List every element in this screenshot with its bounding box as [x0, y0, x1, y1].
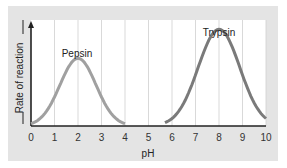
x-tick-label: 8: [216, 132, 222, 143]
x-axis-label: pH: [142, 148, 155, 159]
pepsin-label: Pepsin: [62, 48, 93, 59]
x-tick-label: 6: [169, 132, 175, 143]
chart-figure: Pepsin Trypsin 012345678910 pH Rate of r…: [0, 0, 287, 168]
x-tick-label: 2: [75, 132, 81, 143]
y-axis-label: Rate of reaction: [14, 43, 25, 114]
x-tick-label: 5: [146, 132, 152, 143]
x-tick-label: 1: [52, 132, 58, 143]
x-tick-label: 4: [122, 132, 128, 143]
x-tick-label: 7: [193, 132, 199, 143]
trypsin-label: Trypsin: [203, 27, 235, 38]
x-tick-label: 0: [28, 132, 34, 143]
chart-svg: Pepsin Trypsin 012345678910 pH Rate of r…: [0, 0, 287, 168]
x-tick-label: 3: [99, 132, 105, 143]
x-tick-labels: 012345678910: [28, 132, 272, 143]
x-tick-label: 10: [260, 132, 272, 143]
x-tick-label: 9: [240, 132, 246, 143]
